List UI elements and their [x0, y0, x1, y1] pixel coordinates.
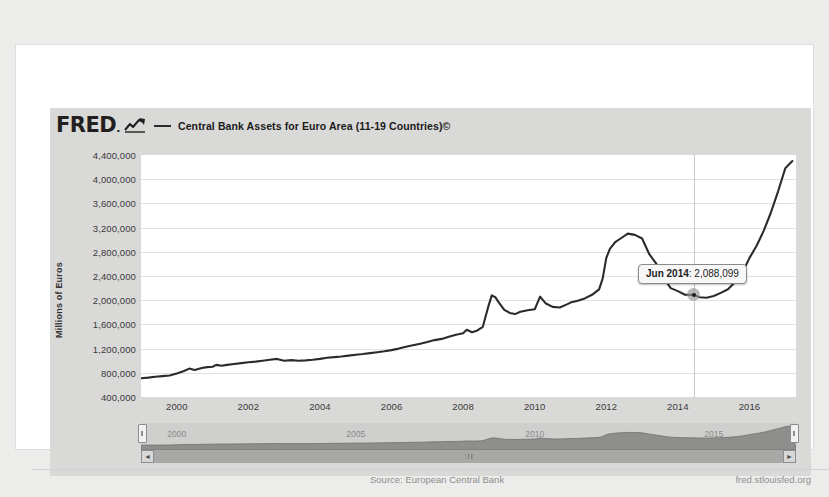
y-tick-label: 2,400,000 — [50, 271, 136, 282]
trend-up-icon — [124, 117, 146, 133]
nav-handle-left[interactable] — [138, 424, 147, 443]
chart-footer: Source: European Central Bank fred.stlou… — [32, 469, 829, 492]
x-tick-label: 2002 — [238, 401, 260, 412]
arrow-left-icon: ◄ — [144, 453, 151, 460]
y-axis-tick-labels: 4,400,0004,000,0003,600,0003,200,0002,80… — [50, 155, 136, 397]
handle-grip — [141, 431, 143, 436]
scroll-left-button[interactable]: ◄ — [141, 450, 154, 463]
y-tick-label: 800,000 — [50, 367, 136, 378]
chart-white-frame: FRED. Central Bank Assets for Euro Area … — [16, 45, 813, 449]
chart-header: FRED. Central Bank Assets for Euro Area … — [50, 108, 811, 140]
fred-logo-text: FRED — [56, 113, 116, 137]
handle-grip — [793, 431, 795, 436]
navigator-year-label: 2015 — [704, 429, 723, 439]
source-text: Source: European Central Bank — [370, 474, 504, 485]
x-tick-label: 2014 — [667, 401, 689, 412]
x-tick-label: 2012 — [596, 401, 618, 412]
y-tick-label: 2,000,000 — [50, 295, 136, 306]
y-tick-label: 400,000 — [50, 392, 136, 403]
legend-label: Central Bank Assets for Euro Area (11-19… — [178, 120, 450, 132]
tooltip-value: 2,088,099 — [694, 268, 739, 279]
y-tick-label: 4,000,000 — [50, 174, 136, 185]
x-tick-label: 2004 — [309, 401, 331, 412]
y-tick-label: 3,200,000 — [50, 222, 136, 233]
fred-logo[interactable]: FRED. — [56, 115, 120, 139]
scrollbar-thumb[interactable] — [154, 450, 783, 463]
x-tick-label: 2010 — [524, 401, 546, 412]
navigator-scrollbar[interactable]: ◄ ► — [141, 450, 796, 463]
y-tick-label: 2,800,000 — [50, 246, 136, 257]
x-tick-label: 2006 — [381, 401, 403, 412]
fred-logo-dot: . — [116, 122, 120, 135]
range-navigator[interactable]: 2000200520102015 — [141, 423, 796, 450]
x-tick-label: 2008 — [452, 401, 474, 412]
arrow-right-icon: ► — [786, 453, 793, 460]
fred-chart-card: FRED. Central Bank Assets for Euro Area … — [50, 108, 811, 476]
y-tick-label: 1,600,000 — [50, 319, 136, 330]
screenshot-root: FRED. Central Bank Assets for Euro Area … — [0, 0, 829, 497]
navigator-series — [141, 423, 796, 450]
x-tick-label: 2000 — [166, 401, 188, 412]
thumb-grip-icon — [465, 454, 472, 459]
x-axis-tick-labels: 200020022004200620082010201220142016 — [141, 401, 796, 417]
nav-handle-right[interactable] — [790, 424, 799, 443]
scroll-right-button[interactable]: ► — [783, 450, 796, 463]
navigator-year-label: 2010 — [525, 429, 544, 439]
navigator-year-label: 2005 — [346, 429, 365, 439]
y-tick-label: 1,200,000 — [50, 343, 136, 354]
y-tick-label: 4,400,000 — [50, 150, 136, 161]
navigator-year-label: 2000 — [167, 429, 186, 439]
fred-url[interactable]: fred.stlouisfed.org — [735, 474, 811, 485]
chart-legend[interactable]: Central Bank Assets for Euro Area (11-19… — [154, 120, 450, 132]
value-tooltip: Jun 2014: 2,088,099 — [638, 264, 747, 284]
legend-swatch — [154, 125, 171, 127]
y-tick-label: 3,600,000 — [50, 198, 136, 209]
x-tick-label: 2016 — [739, 401, 761, 412]
tooltip-date: Jun 2014 — [646, 268, 689, 279]
